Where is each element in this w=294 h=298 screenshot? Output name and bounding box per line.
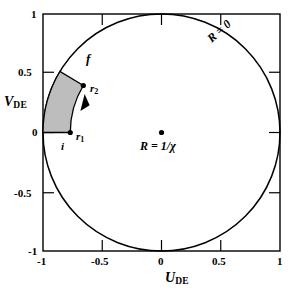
x-axis-title-main: U xyxy=(165,270,175,285)
y-tick-label-m1: -1 xyxy=(28,246,37,257)
shaded-annular-sector xyxy=(43,72,83,133)
evolution-arrow xyxy=(80,94,89,111)
point-r2-label-sub: 2 xyxy=(94,87,98,96)
figure-canvas: -1 -0.5 0 0.5 1 1 0.5 0 -0.5 -1 UDE VDE … xyxy=(0,0,294,298)
x-tick-label-1: -0.5 xyxy=(91,256,108,267)
label-f: f xyxy=(86,52,90,65)
x-axis-title: UDE xyxy=(165,271,189,285)
x-tick-label-0: -1 xyxy=(37,256,46,267)
point-r1-label-sub: 1 xyxy=(80,135,84,144)
point-center-dot xyxy=(159,130,164,135)
x-tick-label-4: 1 xyxy=(277,256,283,267)
y-tick-label-0: 0 xyxy=(32,127,38,138)
x-axis-ticks-bottom xyxy=(102,240,221,251)
x-tick-label-3: 0.5 xyxy=(212,256,226,267)
y-axis-title: VDE xyxy=(4,95,27,109)
x-tick-label-2: 0 xyxy=(158,256,164,267)
y-tick-label-m05: -0.5 xyxy=(14,188,31,199)
point-r1-dot xyxy=(68,130,73,135)
x-axis-title-sub: DE xyxy=(175,276,189,286)
y-tick-label-05: 0.5 xyxy=(18,67,32,78)
center-region-label: R = 1/χ xyxy=(140,140,176,152)
label-i: i xyxy=(61,141,64,152)
point-r1-label: r1 xyxy=(76,131,84,142)
y-axis-title-sub: DE xyxy=(13,100,27,110)
point-r2-dot xyxy=(81,83,86,88)
x-axis-ticks-top xyxy=(102,14,221,25)
y-axis-title-main: V xyxy=(4,94,13,109)
y-tick-label-1: 1 xyxy=(31,9,37,20)
point-r2-label: r2 xyxy=(90,83,98,94)
y-axis-ticks-right xyxy=(269,72,280,193)
